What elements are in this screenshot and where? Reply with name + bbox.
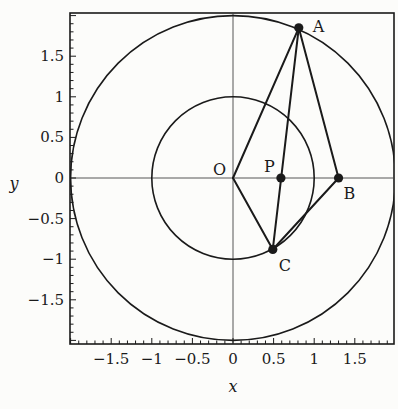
point-o-label: O: [213, 160, 226, 179]
segment-bc: [273, 178, 339, 249]
geometry-plot: −1.5−1−0.500.511.51.510.50−0.5−1−1.5 OAP…: [0, 0, 398, 409]
segment-oc: [233, 178, 273, 249]
x-tick-label: 1: [309, 350, 319, 368]
segment-oa: [233, 28, 299, 178]
y-tick-label: 1: [54, 88, 64, 106]
x-tick-label: 1.5: [343, 350, 367, 368]
point-a-marker: [294, 23, 303, 32]
point-a-label: A: [312, 17, 325, 36]
axes-group: −1.5−1−0.500.511.51.510.50−0.5−1−1.5: [28, 13, 394, 368]
point-p-marker: [276, 173, 285, 182]
point-c-label: C: [279, 256, 291, 275]
x-tick-label: −0.5: [174, 350, 210, 368]
y-tick-label: 1.5: [40, 47, 64, 65]
segment-ac: [273, 28, 299, 250]
x-tick-label: 0.5: [262, 350, 286, 368]
segments-group: [233, 28, 339, 250]
point-c-marker: [268, 245, 277, 254]
x-axis-label: x: [228, 377, 237, 396]
y-tick-label: −1: [42, 250, 64, 268]
y-axis-label: y: [8, 174, 19, 193]
point-p-label: P: [264, 157, 275, 176]
points-group: [268, 23, 343, 254]
x-tick-label: 0: [228, 350, 238, 368]
point-b-label: B: [344, 184, 356, 203]
y-tick-label: 0.5: [40, 128, 64, 146]
y-tick-label: −0.5: [28, 210, 64, 228]
y-tick-label: 0: [54, 169, 64, 187]
x-tick-label: −1: [141, 350, 163, 368]
point-b-marker: [334, 173, 343, 182]
x-tick-label: −1.5: [93, 350, 129, 368]
y-tick-label: −1.5: [28, 291, 64, 309]
